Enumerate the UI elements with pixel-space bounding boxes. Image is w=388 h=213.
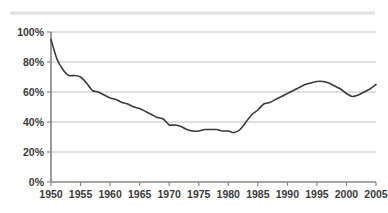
data-series-line <box>51 40 376 133</box>
x-axis-tick-label: 1985 <box>246 188 270 200</box>
x-axis-tick-label: 1965 <box>128 188 152 200</box>
y-axis-tick-label: 0% <box>29 176 45 188</box>
x-axis-labels: 1950195519601965197019751980198519901995… <box>39 188 388 200</box>
page-artifact-band <box>10 12 375 15</box>
x-axis-tick-label: 1960 <box>98 188 122 200</box>
y-axis-tick-label: 80% <box>23 56 45 68</box>
x-axis-tick-label: 2000 <box>335 188 359 200</box>
x-axis-tick-label: 1975 <box>187 188 211 200</box>
x-axis-tick-label: 1980 <box>217 188 241 200</box>
y-axis-tick-label: 60% <box>23 86 45 98</box>
y-axis-tick-label: 20% <box>23 146 45 158</box>
x-axis-tick-label: 1995 <box>305 188 329 200</box>
y-axis-tick-label: 100% <box>17 26 45 38</box>
x-axis-tick-label: 2005 <box>364 188 388 200</box>
x-axis-tick-label: 1955 <box>69 188 93 200</box>
x-axis-tick-label: 1970 <box>158 188 182 200</box>
x-axis-tick-label: 1990 <box>276 188 300 200</box>
chart-svg: 0%20%40%60%80%100% 195019551960196519701… <box>0 0 388 213</box>
line-chart: 0%20%40%60%80%100% 195019551960196519701… <box>0 0 388 213</box>
x-axis-tick-label: 1950 <box>39 188 63 200</box>
y-axis-tick-label: 40% <box>23 116 45 128</box>
y-axis-labels: 0%20%40%60%80%100% <box>17 26 45 188</box>
